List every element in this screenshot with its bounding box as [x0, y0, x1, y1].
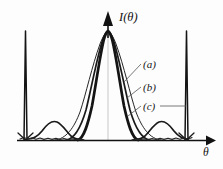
x-axis-label: θ: [203, 147, 209, 159]
spike-right-principal-maximum: [185, 31, 188, 140]
curve-label-a: (a): [143, 59, 156, 70]
plot-canvas: [0, 0, 223, 169]
x-axis-arrowhead: [206, 136, 216, 146]
curve-label-b: (b): [143, 82, 156, 93]
curve-label-c: (c): [143, 101, 155, 112]
y-axis-arrowhead: [103, 11, 113, 26]
y-axis-label: I(θ): [119, 11, 138, 24]
leader-line-a: [124, 64, 141, 82]
spike-left-principal-maximum: [24, 31, 27, 140]
diffraction-intensity-figure: I(θ) θ (a) (b) (c): [0, 0, 223, 169]
